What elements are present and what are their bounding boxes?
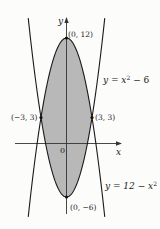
y-axis-label: y (57, 16, 64, 26)
left-intersection-point (39, 116, 42, 119)
curve-down-label-prefix: y = 12 − x (104, 181, 153, 191)
origin-label: 0 (60, 146, 65, 155)
right-intersection-label: (3, 3) (95, 113, 115, 122)
left-intersection-label: (−3, 3) (11, 113, 38, 122)
curve-up-label-prefix: y = x (102, 75, 126, 85)
x-axis-label: x (116, 147, 121, 157)
bottom-vertex-label: (0, −6) (70, 203, 97, 212)
curve-down-label: y = 12 − x2 (104, 180, 157, 192)
region-between-parabolas-graph: y x 0 (0, 12) (0, −6) (−3, 3) (3, 3) y =… (0, 0, 160, 229)
y-axis-arrow-icon (64, 17, 68, 23)
bottom-vertex-point (65, 195, 68, 198)
curve-down-label-exponent: 2 (153, 180, 157, 187)
top-vertex-label: (0, 12) (68, 30, 93, 39)
x-axis-arrow-icon (116, 141, 122, 145)
right-intersection-point (90, 116, 93, 119)
curve-up-label-suffix: − 6 (130, 75, 149, 85)
curve-up-label: y = x2 − 6 (102, 74, 150, 86)
